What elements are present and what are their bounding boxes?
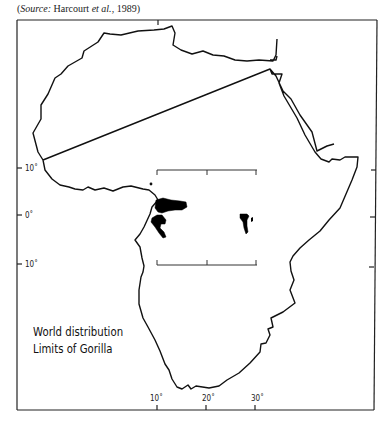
eastern-gorilla-range (240, 214, 249, 234)
island-dot (150, 183, 153, 186)
legend-line-2: Limits of Gorilla (33, 340, 123, 357)
lat-label-10n: 10˚ (25, 163, 38, 173)
map-legend: World distribution Limits of Gorilla (33, 323, 123, 357)
western-gorilla-range-south (151, 215, 166, 238)
lat-label-10s: 10˚ (25, 259, 38, 269)
eastern-gorilla-range-small (251, 217, 253, 222)
western-gorilla-range (155, 198, 187, 213)
legend-line-1: World distribution (33, 323, 123, 340)
lat-label-0: 0˚ (25, 210, 33, 220)
lon-label-20e: 20˚ (202, 393, 215, 403)
lon-label-30e: 30˚ (251, 393, 264, 403)
africa-map (0, 0, 386, 425)
lon-label-10e: 10˚ (150, 393, 163, 403)
